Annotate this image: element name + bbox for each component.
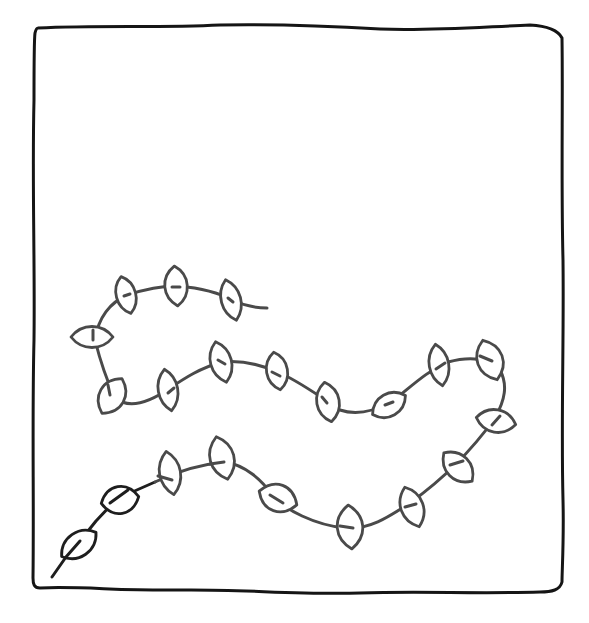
leaf-veins bbox=[66, 287, 500, 557]
sketch-canvas bbox=[0, 0, 589, 623]
leaf bbox=[156, 450, 184, 497]
leaf bbox=[91, 372, 133, 419]
leaf bbox=[205, 434, 240, 483]
leaf bbox=[155, 368, 181, 413]
leaf bbox=[435, 444, 480, 489]
leaf bbox=[263, 350, 290, 391]
vine-stem bbox=[95, 286, 505, 528]
leaves bbox=[55, 265, 518, 566]
leaf bbox=[426, 343, 452, 388]
